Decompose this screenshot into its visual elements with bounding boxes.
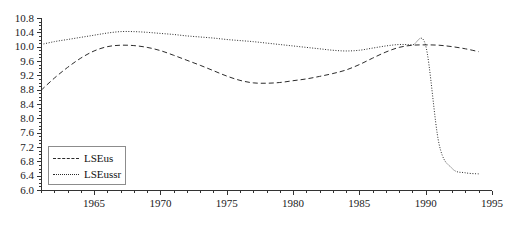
series-line-lseus <box>41 45 479 91</box>
x-tick-label: 1990 <box>406 198 446 209</box>
chart-legend: LSEus LSEussr <box>48 146 126 185</box>
x-tick-label: 1975 <box>207 198 247 209</box>
legend-label-lseussr: LSEussr <box>84 169 121 180</box>
legend-swatch-dotted-icon <box>53 174 79 175</box>
y-tick-label: 9.2 <box>0 70 34 81</box>
y-tick-label: 7.2 <box>0 142 34 153</box>
y-tick-label: 6.4 <box>0 170 34 181</box>
x-tick-label: 1965 <box>74 198 114 209</box>
x-tick-label: 1980 <box>273 198 313 209</box>
legend-entry-lseus: LSEus <box>53 150 113 166</box>
y-tick-label: 8.0 <box>0 113 34 124</box>
x-tick-label: 1985 <box>339 198 379 209</box>
x-tick-label: 1995 <box>472 198 505 209</box>
chart-figure: 10.810.410.09.69.28.88.48.07.67.26.86.46… <box>0 0 505 226</box>
legend-swatch-dashed-icon <box>53 158 79 159</box>
y-tick-label: 10.4 <box>0 27 34 38</box>
y-tick-label: 7.6 <box>0 127 34 138</box>
y-tick-label: 6.0 <box>0 185 34 196</box>
legend-entry-lseussr: LSEussr <box>53 166 121 182</box>
y-tick-label: 6.8 <box>0 156 34 167</box>
chart-plot-area <box>0 0 505 226</box>
y-tick-label: 9.6 <box>0 56 34 67</box>
legend-label-lseus: LSEus <box>84 153 113 164</box>
y-tick-label: 10.0 <box>0 41 34 52</box>
x-tick-label: 1970 <box>140 198 180 209</box>
y-tick-label: 10.8 <box>0 13 34 24</box>
y-tick-label: 8.8 <box>0 84 34 95</box>
y-tick-label: 8.4 <box>0 99 34 110</box>
